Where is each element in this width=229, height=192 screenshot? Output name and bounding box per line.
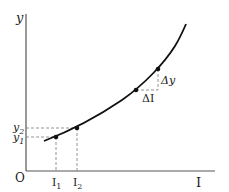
delta-y-label: Δy <box>160 74 176 87</box>
point-1 <box>54 135 59 140</box>
lower-guides <box>26 128 77 171</box>
point-4 <box>156 67 161 72</box>
delta-I-label: ΔI <box>142 92 154 105</box>
I2-label: I2 <box>73 176 82 191</box>
I1-label: I1 <box>52 176 61 191</box>
curve-diagram: y I O y2 y1 I1 I2 Δy ΔI <box>0 0 229 192</box>
point-2 <box>75 126 80 131</box>
y-axis-label: y <box>15 10 24 25</box>
origin-label: O <box>15 171 25 185</box>
x-axis-label: I <box>196 175 201 190</box>
point-3 <box>134 88 139 93</box>
